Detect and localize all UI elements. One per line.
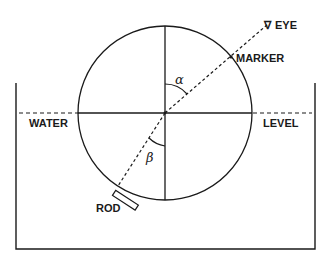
- alpha-label: α: [175, 72, 184, 87]
- refraction-diagram: ∇ EYE MARKER WATER LEVEL ROD α β: [0, 0, 329, 264]
- water-label: WATER: [29, 117, 68, 129]
- marker-label: MARKER: [236, 52, 284, 64]
- beta-arc: [149, 138, 165, 146]
- sight-line-lower: [118, 113, 165, 186]
- center-dot: [164, 112, 167, 115]
- beta-label: β: [145, 150, 154, 165]
- sight-line-upper: [165, 24, 268, 113]
- level-label: LEVEL: [263, 117, 299, 129]
- eye-symbol-icon: ∇: [263, 19, 272, 31]
- marker-dot: [229, 55, 232, 58]
- rod-label: ROD: [96, 202, 121, 214]
- eye-label: EYE: [275, 19, 297, 31]
